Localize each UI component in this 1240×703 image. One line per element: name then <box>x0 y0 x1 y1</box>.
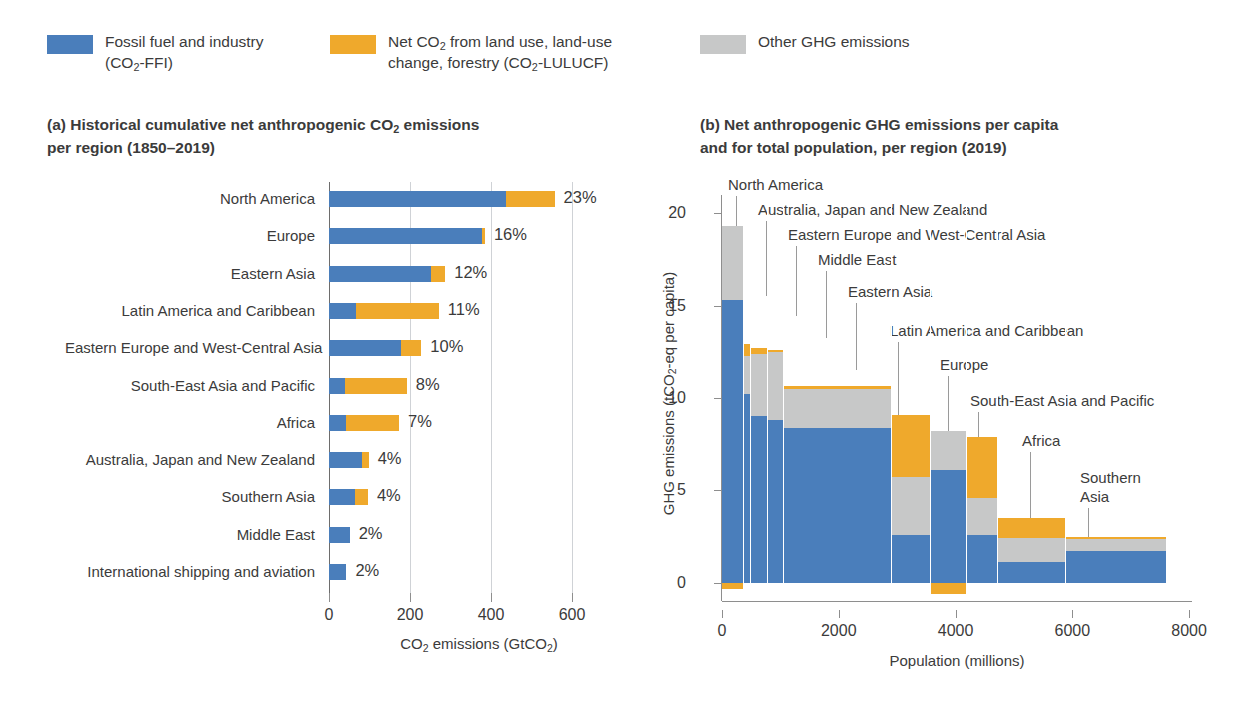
panel-b-bar-separator <box>1166 195 1167 601</box>
panel-a-bar-segment-ffi <box>329 340 401 356</box>
panel-b-stacked-bar[interactable] <box>722 195 744 601</box>
panel-b-bar-segment-ffi <box>768 420 784 582</box>
panel-a-stacked-bar[interactable] <box>329 378 407 394</box>
panel-a-bar-segment-ffi <box>329 228 482 244</box>
legend-label-lulucf-line2: change, forestry (CO2-LULUCF) <box>388 54 609 71</box>
panel-a-bar-value-label: 7% <box>408 412 432 431</box>
panel-a-bar-value-label: 2% <box>355 561 379 580</box>
panel-b-bar-segment-lulucf <box>751 348 768 354</box>
panel-b-bar-segment-lulucf <box>1066 537 1166 539</box>
panel-b-y-tick <box>714 490 721 491</box>
panel-b-annotation-label: North America <box>728 176 823 194</box>
panel-a-title: (a) Historical cumulative net anthropoge… <box>47 113 587 159</box>
panel-a-x-tick <box>410 593 411 602</box>
panel-a-row-label: International shipping and aviation <box>65 563 315 581</box>
panel-a-bar-row: South-East Asia and Pacific8% <box>0 368 640 404</box>
panel-b-y-tick <box>714 583 721 584</box>
panel-a-bar-value-label: 4% <box>378 449 402 468</box>
panel-b-bar-segment-ffi <box>998 562 1066 582</box>
panel-a-x-tick-label: 600 <box>559 606 586 624</box>
panel-b-title: (b) Net anthropogenic GHG emissions per … <box>700 113 1220 159</box>
panel-b-y-tick <box>714 306 721 307</box>
panel-b-stacked-bar[interactable] <box>967 195 999 601</box>
legend-swatch-ffi <box>47 35 93 54</box>
panel-a-bar-row: North America23% <box>0 181 640 217</box>
panel-a-stacked-bar[interactable] <box>329 228 485 244</box>
panel-b-stacked-bar[interactable] <box>931 195 967 601</box>
panel-b-bar-segment-lulucf <box>768 350 784 352</box>
panel-a-x-axis-label: CO2 emissions (GtCO2) <box>329 635 629 652</box>
panel-b-x-tick <box>722 610 723 618</box>
panel-b-bar-segment-lulucf <box>722 583 744 589</box>
panel-a-bar-segment-lulucf <box>401 340 421 356</box>
panel-a-stacked-bar[interactable] <box>329 452 369 468</box>
panel-b-bar-segment-other-ghg <box>1066 539 1166 551</box>
panel-b-stacked-bar[interactable] <box>768 195 784 601</box>
panel-a-bar-segment-ffi <box>329 489 355 505</box>
panel-a-x-tick-label: 400 <box>478 606 505 624</box>
panel-a-row-label: Australia, Japan and New Zealand <box>65 451 315 469</box>
panel-b-bar-segment-ffi <box>931 470 967 583</box>
panel-a-bar-row: Southern Asia4% <box>0 479 640 515</box>
panel-a-stacked-bar[interactable] <box>329 303 439 319</box>
panel-a-stacked-bar[interactable] <box>329 527 350 543</box>
panel-a-bar-value-label: 8% <box>416 375 440 394</box>
panel-b-title-line1: (b) Net anthropogenic GHG emissions per … <box>700 116 1058 133</box>
panel-a-stacked-bar[interactable] <box>329 191 555 207</box>
panel-a-x-tick <box>491 593 492 602</box>
panel-a-bar-value-label: 16% <box>494 225 527 244</box>
panel-a-x-tick <box>572 593 573 602</box>
panel-a-row-label: Africa <box>65 414 315 432</box>
panel-a-bar-segment-ffi <box>329 527 350 543</box>
panel-a-title-line2: per region (1850–2019) <box>47 139 215 156</box>
panel-b-bar-segment-other-ghg <box>722 226 744 300</box>
panel-a-bar-row: Africa7% <box>0 405 640 441</box>
panel-a-bar-segment-ffi <box>329 415 346 431</box>
panel-a-bar-value-label: 11% <box>448 300 480 319</box>
panel-b-stacked-bar[interactable] <box>998 195 1066 601</box>
panel-b-bar-segment-other-ghg <box>998 538 1066 562</box>
legend-label-ffi-line2: (CO2-FFI) <box>105 54 173 71</box>
panel-a-bar-segment-lulucf <box>356 303 439 319</box>
panel-b-bar-segment-lulucf <box>892 415 931 478</box>
panel-b-stacked-bar[interactable] <box>784 195 893 601</box>
panel-a-title-line1: (a) Historical cumulative net anthropoge… <box>47 116 479 133</box>
panel-b-x-tick-label: 6000 <box>1055 622 1091 640</box>
panel-a-bar-value-label: 10% <box>430 337 463 356</box>
panel-b-x-tick-label: 8000 <box>1171 622 1207 640</box>
chart-legend: Fossil fuel and industry (CO2-FFI) Net C… <box>0 0 1240 92</box>
panel-a-stacked-bar[interactable] <box>329 415 399 431</box>
panel-a-stacked-bar[interactable] <box>329 266 445 282</box>
panel-a-stacked-bar[interactable] <box>329 340 421 356</box>
panel-a-bar-segment-ffi <box>329 303 356 319</box>
panel-b-x-tick-label: 4000 <box>938 622 974 640</box>
panel-b-bar-segment-lulucf <box>784 386 893 389</box>
legend-label-lulucf-line1: Net CO2 from land use, land-use <box>388 33 612 50</box>
legend-swatch-lulucf <box>330 35 376 54</box>
panel-b-stacked-bar[interactable] <box>892 195 931 601</box>
panel-b-stacked-bar[interactable] <box>751 195 768 601</box>
panel-a-bar-segment-ffi <box>329 266 431 282</box>
panel-a-stacked-bar[interactable] <box>329 564 346 580</box>
panel-b-y-tick <box>714 213 721 214</box>
panel-a-bar-segment-lulucf <box>345 378 407 394</box>
panel-b-bar-segment-other-ghg <box>892 477 931 534</box>
panel-a-stacked-bar[interactable] <box>329 489 368 505</box>
panel-a-bar-segment-ffi <box>329 378 345 394</box>
panel-a-row-label: Middle East <box>65 526 315 544</box>
panel-a-bar-segment-lulucf <box>362 452 369 468</box>
panel-b-bar-segment-ffi <box>751 416 768 582</box>
panel-b-x-axis-label: Population (millions) <box>722 652 1192 669</box>
panel-b-stacked-bar[interactable] <box>744 195 752 601</box>
panel-b-chart: North AmericaAustralia, Japan and New Ze… <box>640 170 1240 690</box>
panel-b-stacked-bar[interactable] <box>1066 195 1166 601</box>
legend-label-lulucf: Net CO2 from land use, land-use change, … <box>388 31 633 73</box>
legend-swatch-other-ghg <box>700 35 746 54</box>
panel-a-bar-row: Eastern Asia12% <box>0 256 640 292</box>
panel-a-x-tick-label: 0 <box>325 606 334 624</box>
panel-a-bar-value-label: 2% <box>359 524 383 543</box>
panel-a-bar-row: Australia, Japan and New Zealand4% <box>0 442 640 478</box>
panel-a-bar-row: International shipping and aviation2% <box>0 554 640 590</box>
panel-b-bar-segment-other-ghg <box>967 498 999 535</box>
panel-b-bar-segment-other-ghg <box>751 354 768 417</box>
